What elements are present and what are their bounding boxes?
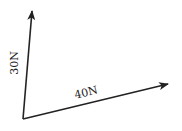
vector-30n-label: 30N <box>8 51 21 75</box>
vector-40n: 40N <box>23 83 168 119</box>
vector-40n-label: 40N <box>73 83 99 101</box>
vector-30n: 30N <box>8 11 32 119</box>
force-diagram: 30N 40N <box>0 0 182 131</box>
vector-30n-arrow <box>23 11 32 119</box>
